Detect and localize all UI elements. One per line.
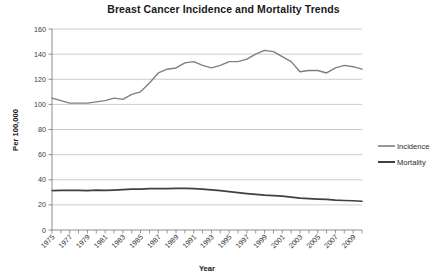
y-axis-tick-label: 120 (34, 75, 46, 84)
legend: IncidenceMortality (378, 142, 430, 167)
x-axis-tick-label: 1999 (251, 233, 269, 251)
legend-label-incidence: Incidence (397, 142, 430, 151)
x-axis-tick-label: 2005 (304, 233, 322, 251)
data-series-group (52, 50, 362, 201)
series-line-mortality (52, 188, 362, 201)
y-axis-tick-label: 100 (34, 100, 46, 109)
series-line-incidence (52, 50, 362, 103)
y-axis-tick-label: 80 (38, 125, 46, 134)
y-axis-title: Per 100,000 (11, 109, 20, 151)
x-axis-tick-label: 1977 (56, 233, 74, 251)
x-axis-title: Year (199, 264, 215, 273)
x-axis-tick-label: 1979 (74, 233, 92, 251)
x-axis-tick-label: 1985 (127, 233, 145, 251)
x-axis-labels-group: 1975197719791981198319851987198919911993… (39, 233, 358, 251)
y-axis-tick-label: 0 (42, 226, 46, 235)
x-axis-tick-label: 1987 (145, 233, 163, 251)
y-axis-tick-label: 20 (38, 200, 46, 209)
x-axis-tick-label: 1995 (216, 233, 234, 251)
y-axis-ticks-group (49, 29, 53, 230)
x-axis-tick-label: 2007 (322, 233, 340, 251)
x-axis-tick-label: 2003 (287, 233, 305, 251)
y-axis-tick-label: 40 (38, 175, 46, 184)
x-axis-tick-label: 1993 (198, 233, 216, 251)
y-axis-tick-label: 60 (38, 150, 46, 159)
gridlines-group (52, 29, 362, 205)
x-axis-tick-label: 2001 (269, 233, 287, 251)
y-axis-labels-group: 020406080100120140160 (34, 25, 46, 235)
x-axis-tick-label: 1997 (234, 233, 252, 251)
legend-label-mortality: Mortality (397, 158, 426, 167)
y-axis-tick-label: 140 (34, 50, 46, 59)
x-axis-tick-label: 1991 (180, 233, 198, 251)
x-axis-tick-label: 1989 (163, 233, 181, 251)
x-axis-tick-label: 1983 (110, 233, 128, 251)
chart-plot-area: 020406080100120140160 197519771979198119… (0, 0, 447, 276)
x-axis-tick-label: 1981 (92, 233, 110, 251)
x-axis-tick-label: 2009 (340, 233, 358, 251)
chart-container: Breast Cancer Incidence and Mortality Tr… (0, 0, 447, 276)
x-axis-tick-label: 1975 (39, 233, 57, 251)
y-axis-tick-label: 160 (34, 25, 46, 34)
